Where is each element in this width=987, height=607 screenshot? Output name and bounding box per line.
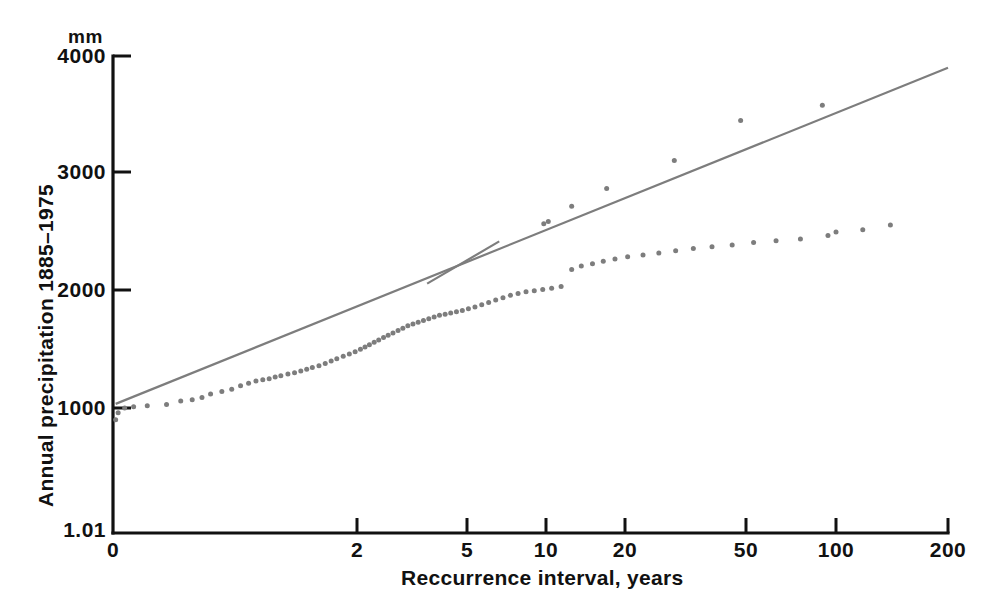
- data-point: [541, 221, 546, 226]
- data-point: [131, 404, 136, 409]
- data-series-layer: [113, 103, 893, 422]
- data-point: [323, 361, 328, 366]
- data-point: [416, 320, 421, 325]
- data-point: [454, 309, 459, 314]
- x-tick-label-20: 20: [600, 538, 650, 562]
- data-point: [238, 383, 243, 388]
- y-tick-label-3000: 3000: [10, 160, 106, 184]
- data-point: [199, 395, 204, 400]
- data-point: [569, 267, 574, 272]
- data-point: [390, 330, 395, 335]
- data-point: [246, 381, 251, 386]
- data-point: [329, 359, 334, 364]
- data-point: [267, 376, 272, 381]
- x-tick-label-2: 2: [337, 538, 377, 562]
- data-point: [113, 417, 118, 422]
- data-point: [549, 286, 554, 291]
- data-point: [426, 316, 431, 321]
- data-point: [532, 288, 537, 293]
- data-point: [486, 300, 491, 305]
- data-point: [376, 337, 381, 342]
- data-point: [292, 370, 297, 375]
- data-point: [304, 367, 309, 372]
- chart-plot-area: [0, 0, 987, 607]
- data-point: [612, 256, 617, 261]
- data-point: [798, 237, 803, 242]
- mid-segment-fit-line: [427, 241, 499, 283]
- data-point: [278, 373, 283, 378]
- x-axis-title: Reccurrence interval, years: [401, 566, 683, 590]
- data-point: [672, 158, 677, 163]
- main-fit-line: [116, 68, 948, 404]
- data-point: [334, 356, 339, 361]
- data-point: [341, 354, 346, 359]
- data-point: [601, 259, 606, 264]
- data-point: [396, 328, 401, 333]
- data-point: [516, 291, 521, 296]
- data-point: [641, 252, 646, 257]
- data-point: [604, 186, 609, 191]
- data-point: [540, 287, 545, 292]
- data-point: [508, 293, 513, 298]
- data-point: [460, 308, 465, 313]
- data-point: [260, 377, 265, 382]
- data-point: [353, 349, 358, 354]
- data-point: [358, 347, 363, 352]
- data-point: [691, 246, 696, 251]
- data-point: [569, 204, 574, 209]
- data-point: [479, 302, 484, 307]
- data-point: [347, 352, 352, 357]
- y-tick-label-4000: 4000: [10, 44, 106, 68]
- precipitation-recurrence-chart: mm 4000 3000 2000 1000 1.01 0 2 5 10 20 …: [0, 0, 987, 607]
- data-point: [825, 233, 830, 238]
- data-point: [888, 222, 893, 227]
- data-point: [448, 310, 453, 315]
- data-point: [421, 318, 426, 323]
- x-tick-label-100: 100: [806, 538, 866, 562]
- data-point: [656, 251, 661, 256]
- y-tick-label-2000: 2000: [10, 278, 106, 302]
- trend-line-layer: [116, 68, 948, 404]
- y-axis-ticks: [113, 56, 131, 408]
- y-tick-label-1000: 1000: [10, 396, 106, 420]
- axis-lines: [113, 56, 948, 533]
- data-point: [673, 248, 678, 253]
- data-point: [500, 295, 505, 300]
- x-tick-label-5: 5: [447, 538, 487, 562]
- data-point: [298, 369, 303, 374]
- data-point: [164, 402, 169, 407]
- data-point: [386, 333, 391, 338]
- data-point: [367, 342, 372, 347]
- data-point: [116, 410, 121, 415]
- data-point: [524, 289, 529, 294]
- data-point: [710, 244, 715, 249]
- data-point: [363, 344, 368, 349]
- data-point: [190, 397, 195, 402]
- data-point: [834, 230, 839, 235]
- data-point: [229, 387, 234, 392]
- data-point: [590, 261, 595, 266]
- data-point: [625, 254, 630, 259]
- data-point: [410, 322, 415, 327]
- data-point: [820, 103, 825, 108]
- data-point: [208, 391, 213, 396]
- y-axis-title: Annual precipitation 1885–1975: [34, 184, 58, 507]
- data-point: [432, 315, 437, 320]
- data-point: [310, 365, 315, 370]
- x-tick-label-50: 50: [721, 538, 771, 562]
- data-point: [860, 227, 865, 232]
- x-tick-label-10: 10: [521, 538, 571, 562]
- data-point: [372, 340, 377, 345]
- data-point: [546, 219, 551, 224]
- data-point: [738, 118, 743, 123]
- x-tick-label-0: 0: [93, 538, 133, 562]
- data-point: [253, 379, 258, 384]
- data-point: [381, 335, 386, 340]
- data-point: [145, 403, 150, 408]
- x-axis-ticks: [357, 518, 948, 533]
- data-point: [316, 363, 321, 368]
- data-point: [466, 306, 471, 311]
- data-point: [751, 240, 756, 245]
- data-point: [472, 305, 477, 310]
- data-point: [774, 238, 779, 243]
